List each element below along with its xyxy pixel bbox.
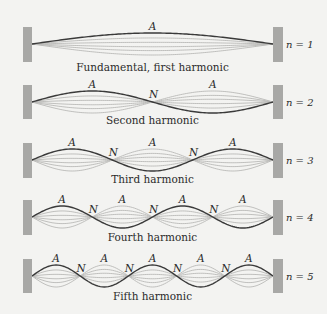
node-label: N xyxy=(148,88,159,100)
harmonic-row-n1: An = 1Fundamental, first harmonic xyxy=(23,20,314,73)
antinode-label: A xyxy=(100,252,109,264)
harmonic-row-n4: AAAANNNn = 4Fourth harmonic xyxy=(23,193,314,243)
antinode-label: A xyxy=(244,252,253,264)
node-label: N xyxy=(172,262,183,274)
antinode-label: A xyxy=(196,252,205,264)
left-wall xyxy=(23,143,32,178)
node-label: N xyxy=(108,146,119,158)
right-wall xyxy=(273,143,283,178)
right-wall xyxy=(273,27,283,62)
harmonic-caption: Fourth harmonic xyxy=(108,231,198,243)
left-wall xyxy=(23,27,32,62)
antinode-label: A xyxy=(87,78,96,90)
string-envelope-line xyxy=(32,154,273,166)
antinode-label: A xyxy=(51,252,60,264)
node-label: N xyxy=(76,262,87,274)
antinode-label: A xyxy=(148,252,157,264)
left-wall xyxy=(23,259,32,293)
antinode-label: A xyxy=(57,193,66,205)
node-label: N xyxy=(208,203,219,215)
node-label: N xyxy=(188,146,199,158)
antinode-label: A xyxy=(238,193,247,205)
string-envelope-line xyxy=(32,274,273,277)
right-wall xyxy=(273,259,283,293)
left-wall xyxy=(23,85,32,119)
harmonic-number-label: n = 5 xyxy=(286,271,314,282)
antinode-label: A xyxy=(178,193,187,205)
node-label: N xyxy=(88,203,99,215)
right-wall xyxy=(273,85,283,119)
harmonic-number-label: n = 3 xyxy=(286,155,314,166)
harmonic-number-label: n = 4 xyxy=(286,212,314,223)
antinode-label: A xyxy=(148,136,157,148)
left-wall xyxy=(23,200,32,235)
harmonic-row-n2: AANn = 2Second harmonic xyxy=(23,78,314,126)
right-wall xyxy=(273,200,283,235)
harmonic-caption: Fifth harmonic xyxy=(113,290,192,302)
node-label: N xyxy=(124,262,135,274)
antinode-label: A xyxy=(118,193,127,205)
antinode-label: A xyxy=(208,78,217,90)
string-envelope-line xyxy=(32,158,273,161)
harmonic-caption: Second harmonic xyxy=(106,114,199,126)
string-envelope-line xyxy=(32,44,273,47)
node-label: N xyxy=(220,262,231,274)
node-label: N xyxy=(148,203,159,215)
string-envelope-line xyxy=(32,153,273,166)
harmonic-row-n5: AAAAANNNNn = 5Fifth harmonic xyxy=(23,252,314,302)
string-envelope-line xyxy=(32,149,273,171)
string-envelope-line xyxy=(32,42,273,44)
standing-waves-diagram: An = 1Fundamental, first harmonicAANn = … xyxy=(0,0,327,314)
harmonic-rows: An = 1Fundamental, first harmonicAANn = … xyxy=(23,20,314,302)
antinode-label: A xyxy=(228,136,237,148)
harmonic-number-label: n = 2 xyxy=(286,97,314,108)
string-dark-line xyxy=(32,149,273,171)
harmonic-caption: Fundamental, first harmonic xyxy=(76,61,229,73)
harmonic-row-n3: AAANNn = 3Third harmonic xyxy=(23,136,314,185)
antinode-label: A xyxy=(67,136,76,148)
harmonic-caption: Third harmonic xyxy=(111,173,194,185)
antinode-label: A xyxy=(148,20,157,32)
harmonic-number-label: n = 1 xyxy=(286,39,314,50)
